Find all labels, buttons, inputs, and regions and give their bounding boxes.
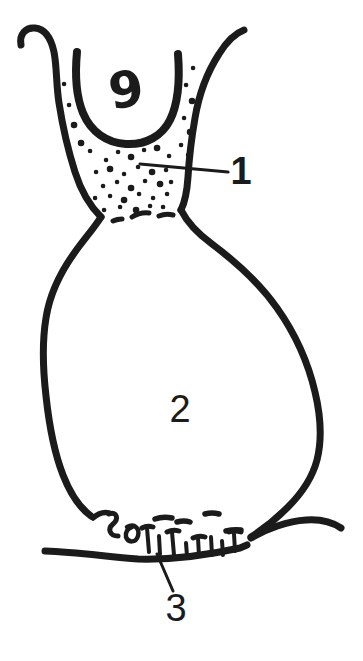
callout-1-label: 1 [230,150,251,192]
diagram-background [0,0,363,661]
diagram-svg: 9 1 2 3 [0,0,363,661]
hand-drawn-diagram: 9 1 2 3 [0,0,363,661]
callout-2-label: 2 [169,388,190,430]
callout-3-label: 3 [165,587,186,629]
